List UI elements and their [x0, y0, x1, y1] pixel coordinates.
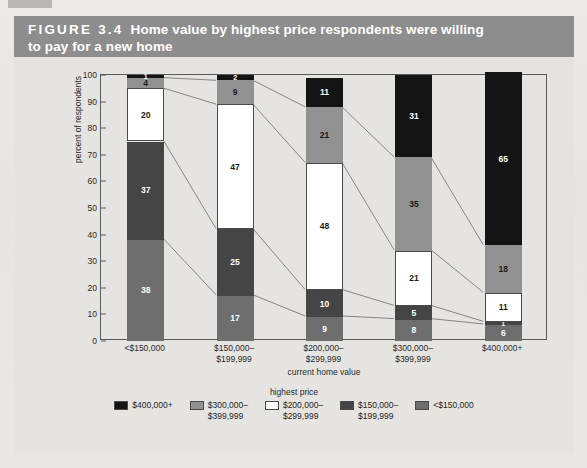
- figure-number: FIGURE 3.4: [28, 22, 124, 37]
- y-tick-label: 100: [83, 70, 97, 80]
- x-tick-label-line: $399,999: [393, 354, 433, 365]
- legend-label: $200,000–$299,999: [283, 400, 323, 421]
- chart-legend: highest price $400,000+$300,000–$399,999…: [14, 387, 574, 421]
- legend-label-line: $199,999: [358, 411, 398, 422]
- bar-segment-value: 18: [499, 265, 508, 274]
- bar-segment: 65: [485, 72, 522, 245]
- bar-segment: 35: [395, 157, 432, 250]
- bar-segment: 31: [395, 75, 432, 157]
- bar-segment-value: 21: [409, 274, 418, 283]
- bar-segment: 25: [217, 229, 254, 296]
- bar-segment-value: 9: [233, 88, 238, 97]
- y-tick-label: 20: [88, 283, 97, 293]
- bar-segment-value: 38: [141, 286, 150, 295]
- legend-label: $400,000+: [132, 400, 172, 411]
- legend-label: $300,000–$399,999: [208, 400, 248, 421]
- bar-segment: 9: [306, 317, 343, 341]
- bar-segment: 21: [306, 107, 343, 163]
- bar-segment: 1: [127, 75, 164, 78]
- stacked-bar: 910482111: [306, 75, 343, 339]
- legend-item[interactable]: $200,000–$299,999: [265, 400, 323, 421]
- x-tick-label-line: $150,000–: [214, 343, 254, 354]
- bar-segment-value: 47: [230, 163, 239, 172]
- legend-label-line: $400,000+: [132, 400, 172, 411]
- bar-segment: 5: [395, 306, 432, 319]
- legend-label-line: <$150,000: [433, 400, 473, 411]
- x-tick-label-line: $300,000–: [393, 343, 433, 354]
- y-axis-title: percent of respondents: [73, 76, 83, 163]
- bar-segment: 9: [217, 80, 254, 104]
- figure-title-text-1: Home value by highest price respondents …: [131, 22, 484, 37]
- legend-title: highest price: [14, 387, 574, 397]
- legend-label: <$150,000: [433, 400, 473, 411]
- x-axis-title: current home value: [288, 367, 361, 377]
- y-tick-label: 60: [88, 176, 97, 186]
- bar-segment-value: 8: [412, 326, 417, 335]
- bar-segment-value: 20: [141, 111, 150, 120]
- bar-segment: 8: [395, 320, 432, 341]
- bar-segment: 6: [485, 325, 522, 341]
- bar-segment-value: 9: [322, 325, 327, 334]
- legend-swatch: [265, 401, 279, 410]
- bar-segment-value: 31: [409, 112, 418, 121]
- legend-item[interactable]: $300,000–$399,999: [190, 400, 248, 421]
- bar-segment-value: 65: [499, 155, 508, 164]
- bar-segment-value: 21: [320, 131, 329, 140]
- bar-segment-value: 35: [409, 200, 418, 209]
- bar-segment-value: 5: [412, 309, 417, 318]
- bar-segment: 47: [217, 104, 254, 229]
- x-tick-label-line: $299,999: [303, 354, 343, 365]
- y-tick-label: 40: [88, 230, 97, 240]
- stacked-bar: 17254792: [217, 75, 254, 339]
- bar-segment-value: 10: [320, 300, 329, 309]
- legend-swatch: [340, 401, 354, 410]
- bar-segment-value: 6: [501, 329, 506, 338]
- bar-segment: 11: [306, 78, 343, 107]
- legend-label-line: $200,000–: [283, 400, 323, 411]
- bar-segment: 38: [127, 240, 164, 341]
- x-tick-label: $150,000–$199,999: [214, 343, 254, 364]
- stacked-bar: 85213531: [395, 75, 432, 339]
- bar-segment: 18: [485, 245, 522, 293]
- y-tick-label: 50: [88, 203, 97, 213]
- x-tick-label: $300,000–$399,999: [393, 343, 433, 364]
- legend-label-line: $150,000–: [358, 400, 398, 411]
- legend-label-line: $299,999: [283, 411, 323, 422]
- legend-items: $400,000+$300,000–$399,999$200,000–$299,…: [14, 400, 574, 421]
- scan-artifact: [8, 0, 52, 8]
- bar-segment: 48: [306, 163, 343, 291]
- bar-segment: 11: [485, 293, 522, 322]
- legend-item[interactable]: $400,000+: [114, 400, 172, 411]
- bar-group: 3837204117254792910482111852135316111186…: [101, 75, 546, 339]
- legend-item[interactable]: $150,000–$199,999: [340, 400, 398, 421]
- bar-segment-value: 17: [230, 314, 239, 323]
- bar-segment: 37: [127, 142, 164, 240]
- y-tick-label: 90: [88, 97, 97, 107]
- bar-segment-value: 48: [320, 222, 329, 231]
- y-tick-label: 0: [92, 336, 97, 346]
- y-tick-mark: [101, 341, 106, 342]
- bar-segment-value: 37: [141, 186, 150, 195]
- figure-header: FIGURE 3.4Home value by highest price re…: [14, 16, 574, 57]
- y-tick-label: 70: [88, 150, 97, 160]
- x-tick-label: $400,000+: [482, 343, 522, 354]
- plot-area: percent of respondents 01020304050607080…: [100, 74, 547, 340]
- bar-segment: 20: [127, 88, 164, 141]
- legend-swatch: [415, 401, 429, 410]
- legend-label-line: $399,999: [208, 411, 248, 422]
- legend-label: $150,000–$199,999: [358, 400, 398, 421]
- x-tick-label-line: $200,000–: [303, 343, 343, 354]
- bar-segment-value: 25: [230, 258, 239, 267]
- x-tick-label: <$150,000: [124, 343, 164, 354]
- bar-segment: 4: [127, 78, 164, 89]
- y-tick-label: 10: [88, 309, 97, 319]
- legend-swatch: [114, 401, 128, 410]
- legend-item[interactable]: <$150,000: [415, 400, 473, 411]
- bar-segment: 2: [217, 75, 254, 80]
- x-tick-label-line: $400,000+: [482, 343, 522, 354]
- legend-label-line: $300,000–: [208, 400, 248, 411]
- bar-segment-value: 11: [499, 303, 508, 312]
- bar-segment: 17: [217, 296, 254, 341]
- x-tick-label-line: $199,999: [214, 354, 254, 365]
- stacked-bar: 61111865: [485, 75, 522, 339]
